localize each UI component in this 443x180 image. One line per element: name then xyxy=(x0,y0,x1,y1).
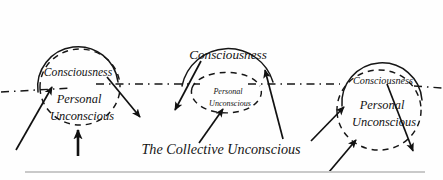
arrow-into-middle-personal-icon xyxy=(199,109,223,143)
label-consciousness-right: Consciousness xyxy=(353,75,413,86)
label-personal-right: Personal xyxy=(359,98,405,112)
label-unconscious-middle: Unconscious xyxy=(209,99,251,108)
label-personal-middle: Personal xyxy=(212,87,243,96)
label-consciousness-left: Consciousness xyxy=(44,66,113,79)
label-personal-left: Personal xyxy=(56,92,102,106)
arrow-into-left-conscious-icon xyxy=(16,87,52,150)
diagram-canvas: Consciousness Personal Unconscious Consc… xyxy=(0,0,443,180)
jung-psyche-diagram: Consciousness Personal Unconscious Consc… xyxy=(0,0,443,180)
bottom-divider-rule xyxy=(25,171,425,173)
arrow-into-right-personal-icon xyxy=(329,140,356,172)
personal-unconscious-middle-top xyxy=(192,72,260,88)
label-consciousness-middle: Consciousness xyxy=(189,47,267,62)
conscious-circle-middle-base xyxy=(183,79,272,87)
label-unconscious-left: Unconscious xyxy=(50,109,114,123)
label-unconscious-right: Unconscious xyxy=(352,115,416,129)
arrow-into-middle-conscious-icon xyxy=(265,70,283,139)
label-collective-unconscious-caption: The Collective Unconscious xyxy=(141,141,301,157)
